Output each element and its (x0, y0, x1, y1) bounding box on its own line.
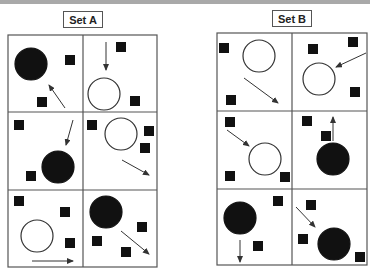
arrow-icon (49, 85, 65, 108)
arrow-icon (227, 130, 249, 146)
square (253, 241, 263, 251)
square (14, 120, 24, 130)
panel (225, 117, 290, 182)
filled-circle (90, 196, 122, 228)
panel (296, 200, 365, 262)
square (219, 43, 229, 53)
square (302, 116, 312, 126)
set-b-grid (217, 33, 367, 265)
square (92, 236, 102, 246)
open-circle (21, 220, 53, 252)
panel (14, 196, 75, 261)
square (355, 252, 365, 262)
square (280, 172, 290, 182)
square (225, 171, 235, 181)
square (144, 126, 154, 136)
square (226, 95, 236, 105)
square (273, 196, 283, 206)
filled-circle (15, 48, 47, 80)
filled-circle (224, 202, 256, 234)
panel (87, 118, 154, 175)
square (321, 131, 331, 141)
filled-circle (42, 151, 74, 183)
panel (15, 48, 75, 108)
square (137, 222, 147, 232)
square (65, 238, 75, 248)
open-circle (249, 143, 281, 175)
set-a-grid (8, 35, 157, 267)
square (350, 87, 360, 97)
square (116, 42, 126, 52)
open-circle (105, 118, 137, 150)
panel (90, 196, 149, 257)
square (348, 37, 358, 47)
panel (219, 40, 278, 105)
panel (224, 196, 283, 262)
square (298, 234, 308, 244)
panel (303, 37, 366, 97)
square (14, 196, 24, 206)
arrow-icon (122, 160, 149, 175)
open-circle (88, 78, 120, 110)
square (130, 96, 140, 106)
panel (14, 120, 74, 183)
panel (302, 116, 349, 175)
open-circle (303, 63, 335, 95)
arrow-icon (244, 78, 278, 103)
arrow-icon (66, 120, 73, 145)
open-circle (243, 40, 275, 72)
panel (88, 42, 140, 110)
filled-circle (318, 228, 350, 260)
arrow-icon (336, 53, 366, 67)
square (87, 120, 97, 130)
square (140, 143, 150, 153)
square (60, 207, 70, 217)
square (26, 171, 36, 181)
square (65, 55, 75, 65)
square (37, 97, 47, 107)
sets-diagram (0, 0, 370, 274)
square (121, 247, 131, 257)
square (306, 200, 316, 210)
filled-circle (317, 143, 349, 175)
square (225, 117, 235, 127)
square (308, 44, 318, 54)
